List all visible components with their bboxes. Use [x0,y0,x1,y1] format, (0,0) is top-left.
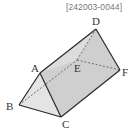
label-c: C [62,118,69,130]
label-f: F [122,66,128,78]
label-a: A [31,62,39,74]
label-b: B [6,100,13,112]
label-d: D [92,15,100,27]
label-e: E [74,62,81,74]
prism-figure: D A E F B C [0,0,137,133]
